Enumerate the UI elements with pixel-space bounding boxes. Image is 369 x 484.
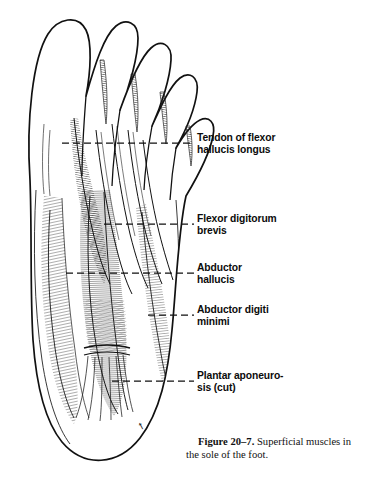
figure-number: Figure 20–7. [198,436,254,447]
figure-caption: Figure 20–7. Superficial muscles in the … [186,436,362,461]
label-abductor-hallucis: Abductor hallucis [197,262,242,285]
plantar-aponeurosis-band [85,300,127,352]
label-flexor-digitorum-brevis: Flexor digitorum brevis [197,213,277,236]
foot-anatomy-illustration: ꝉ [0,0,369,484]
label-abductor-digiti-minimi: Abductor digiti minimi [197,304,269,327]
label-plantar-aponeurosis-cut: Plantar aponeuro- sis (cut) [197,370,283,393]
label-tendon-flexor-hallucis-longus: Tendon of flexor hallucis longus [197,132,275,155]
figure-20-7: ꝉ Tendon of flexor hallucis longus Flexo… [0,0,369,484]
